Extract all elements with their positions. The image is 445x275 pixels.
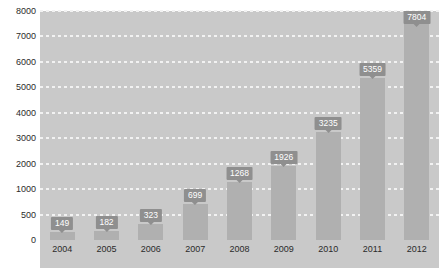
y-axis-tick-label: 0 [2,235,36,245]
x-axis-tick-label: 2009 [274,244,294,254]
x-axis-tick-label: 2005 [96,244,116,254]
bar-data-label: 699 [184,189,206,202]
x-axis-tick-label: 2010 [318,244,338,254]
x-axis: 200420052006200720082009201020112012 [40,244,439,264]
bar-data-label: 7804 [403,11,430,24]
y-axis-tick-label: 5000 [2,82,36,92]
bar-data-label: 1926 [270,151,297,164]
y-axis-tick-label: 500 [2,210,36,220]
y-axis-tick-label: 3000 [2,133,36,143]
x-axis-tick-label: 2006 [141,244,161,254]
y-axis-tick-label: 6000 [2,57,36,67]
y-axis-tick-label: 2000 [2,159,36,169]
bar-data-label: 149 [51,217,73,230]
x-axis-tick-label: 2004 [52,244,72,254]
bar-chart: 050010002000300040005000600070008000 149… [0,0,445,275]
x-axis-tick-label: 2008 [229,244,249,254]
y-axis: 050010002000300040005000600070008000 [0,11,36,240]
data-labels-group: 14918232369912681926323553597804 [40,11,439,240]
bar-data-label: 3235 [315,117,342,130]
bar-data-label: 182 [95,216,117,229]
y-axis-tick-label: 7000 [2,31,36,41]
y-axis-tick-label: 4000 [2,108,36,118]
x-axis-tick-label: 2011 [363,244,382,254]
bar-data-label: 323 [140,209,162,222]
y-axis-tick-label: 1000 [2,184,36,194]
y-axis-tick-label: 8000 [2,6,36,16]
bar-data-label: 1268 [226,167,253,180]
bar-data-label: 5359 [359,63,386,76]
x-axis-tick-label: 2007 [185,244,205,254]
x-axis-tick-label: 2012 [407,244,427,254]
